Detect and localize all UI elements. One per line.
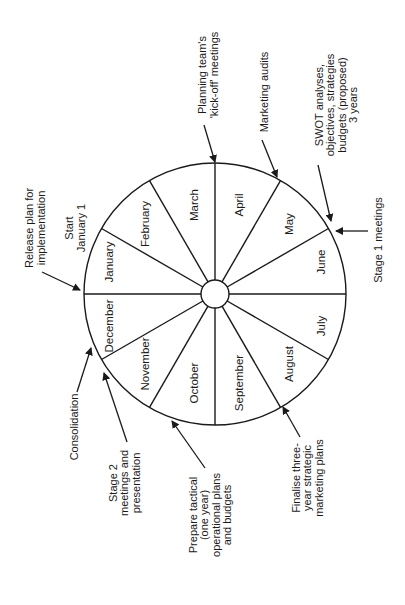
- annotation-finalise: Finalise three-year strategicmarketing p…: [283, 407, 325, 517]
- month-label-october: October: [188, 362, 200, 403]
- annotation-marketing-audits: Marketing audits: [258, 51, 277, 177]
- month-label-april: April: [233, 193, 245, 216]
- annotation-consolidation: Consolidation: [68, 348, 91, 460]
- annotation-line: Start: [63, 216, 75, 239]
- annotation-line: Stage 2: [107, 464, 119, 502]
- annotation-line: 3 years: [347, 86, 359, 123]
- annotation-swot: SWOT analyses,objectives, strategiesbudg…: [313, 53, 360, 221]
- spoke-line: [222, 306, 281, 407]
- annotation-text: Prepare tactical(one year)operational pl…: [187, 473, 234, 557]
- annotation-line: year strategic: [301, 444, 313, 511]
- arrow-icon: [77, 348, 91, 392]
- planning-wheel: [84, 163, 346, 425]
- annotation-tactical: Prepare tactical(one year)operational pl…: [172, 421, 233, 557]
- annotation-line: SWOT analyses,: [313, 64, 325, 146]
- annotation-stage2: Stage 2meetings andpresentation: [104, 373, 142, 516]
- month-label-august: August: [283, 345, 295, 382]
- hub-circle: [201, 280, 229, 308]
- annotation-line: implementation: [35, 191, 47, 266]
- annotation-line: objectives, strategies: [324, 53, 336, 156]
- arrow-icon: [283, 407, 300, 437]
- month-label-june: June: [315, 250, 327, 275]
- annotation-text: Release plan forimplementation: [23, 188, 47, 268]
- annotation-line: January 1: [75, 204, 87, 252]
- month-label-january: January: [103, 241, 115, 282]
- annotation-line: meetings and: [118, 450, 130, 516]
- arrow-icon: [104, 373, 127, 442]
- annotation-line: and budgets: [221, 484, 233, 545]
- annotation-line: Release plan for: [23, 188, 35, 268]
- arrow-icon: [318, 165, 331, 221]
- month-label-may: May: [283, 213, 295, 235]
- annotation-line: (one year): [198, 490, 210, 540]
- annotation-text: Stage 1 meetings: [372, 197, 384, 283]
- month-label-december: December: [103, 299, 115, 352]
- annotation-line: Finalise three-: [290, 443, 302, 513]
- annotation-text: Consolidation: [68, 394, 80, 461]
- month-label-march: March: [188, 189, 200, 221]
- annotation-text: StartJanuary 1: [63, 204, 87, 252]
- annotation-line: 'kick-off' meetings: [208, 31, 220, 118]
- annotation-line: budgets (proposed): [336, 57, 348, 152]
- annotation-line: presentation: [130, 453, 142, 514]
- spoke-line: [222, 181, 281, 282]
- annotation-line: Planning team's: [196, 36, 208, 114]
- planning-cycle-diagram: JanuaryFebruaryMarchAprilMayJuneJulyAugu…: [0, 0, 405, 605]
- annotation-line: marketing plans: [313, 439, 325, 517]
- spoke-line: [102, 229, 203, 288]
- month-label-february: February: [139, 201, 151, 247]
- spoke-line: [102, 301, 203, 360]
- arrow-icon: [204, 125, 215, 162]
- arrow-icon: [262, 140, 277, 177]
- annotation-text: Planning team's'kick-off' meetings: [196, 31, 220, 118]
- month-label-november: November: [139, 337, 151, 390]
- annotation-line: Consolidation: [68, 394, 80, 461]
- annotation-text: Finalise three-year strategicmarketing p…: [290, 439, 325, 517]
- month-label-september: September: [233, 355, 245, 411]
- annotation-text: Stage 2meetings andpresentation: [107, 450, 142, 516]
- annotation-kick-off: Planning team's'kick-off' meetings: [196, 31, 220, 162]
- month-label-july: July: [315, 316, 327, 337]
- annotation-text: SWOT analyses,objectives, strategiesbudg…: [313, 53, 360, 156]
- annotation-line: Stage 1 meetings: [372, 197, 384, 283]
- annotation-line: Marketing audits: [258, 51, 270, 132]
- annotation-text: Marketing audits: [258, 51, 270, 132]
- annotation-line: operational plans: [210, 473, 222, 557]
- annotation-start-january: StartJanuary 1: [63, 204, 87, 252]
- annotation-line: Prepare tactical: [187, 477, 199, 553]
- arrow-icon: [172, 421, 205, 468]
- spoke-line: [227, 301, 328, 360]
- arrow-icon: [42, 272, 80, 290]
- spoke-line: [227, 229, 328, 288]
